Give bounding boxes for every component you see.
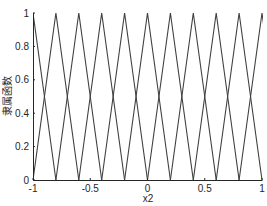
membership-curve-9 bbox=[193, 13, 239, 180]
membership-curve-3 bbox=[56, 13, 102, 180]
y-tick-label: 1 bbox=[23, 8, 29, 19]
x-tick-label: -0.5 bbox=[82, 183, 100, 194]
membership-curve-2 bbox=[33, 13, 79, 180]
membership-curve-11 bbox=[239, 13, 267, 180]
x-tick-label: -1 bbox=[29, 183, 38, 194]
x-axis-label: x2 bbox=[143, 193, 154, 204]
membership-curves bbox=[10, 13, 267, 180]
membership-curve-4 bbox=[79, 13, 125, 180]
y-tick-label: 0.4 bbox=[15, 108, 29, 119]
membership-curve-6 bbox=[125, 13, 171, 180]
y-tick-label: 0.6 bbox=[15, 74, 29, 85]
membership-curve-5 bbox=[102, 13, 148, 180]
y-tick-label: 0.2 bbox=[15, 141, 29, 152]
y-tick-label: 0.8 bbox=[15, 41, 29, 52]
x-tick-label: 1 bbox=[259, 183, 265, 194]
y-axis-label: 隶属函数 bbox=[1, 76, 13, 116]
membership-curve-7 bbox=[148, 13, 194, 180]
x-tick-label: 0.5 bbox=[198, 183, 212, 194]
y-tick-labels: 00.20.40.60.81 bbox=[15, 8, 29, 186]
membership-function-chart: -1-0.500.51 00.20.40.60.81 x2 隶属函数 bbox=[0, 0, 267, 206]
y-tick-label: 0 bbox=[23, 175, 29, 186]
membership-curve-8 bbox=[170, 13, 216, 180]
membership-curve-10 bbox=[216, 13, 262, 180]
